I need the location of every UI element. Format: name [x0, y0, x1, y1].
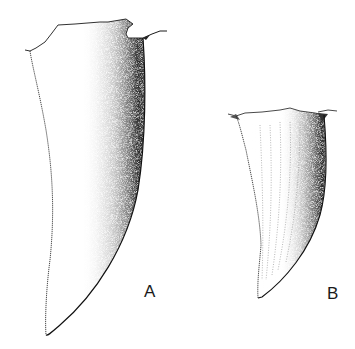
panel-label-a: A	[144, 283, 155, 300]
tooth-illustration	[0, 0, 355, 349]
tooth-b	[228, 105, 337, 305]
panel-label-b: B	[327, 285, 338, 302]
